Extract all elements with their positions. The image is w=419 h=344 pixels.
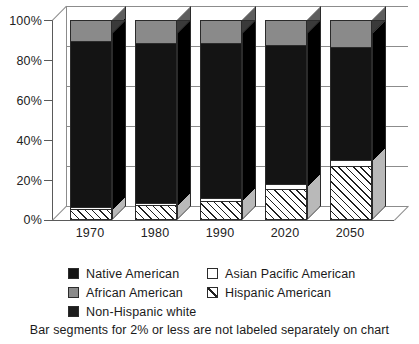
stacked-bar-chart: 100% 80% 60% 40% 20% 0%: [0, 0, 419, 344]
legend-item-native-american: Native American: [68, 266, 179, 281]
bar-2020-seg-non-hispanic-white: [265, 45, 307, 185]
bar-2050-seg-non-hispanic-white: [330, 47, 372, 161]
legend-label-african-american: African American: [86, 286, 183, 300]
bar-1990-seg-hispanic-american: [200, 201, 242, 220]
bar-2050-seg-african-american: [330, 20, 372, 48]
xtick-label-1980: 1980: [123, 226, 187, 240]
bar-1980-side: [177, 6, 191, 220]
bar-1970-seg-non-hispanic-white: [70, 41, 112, 208]
chart-legend: Native American African American Non-His…: [0, 264, 419, 344]
y-axis-line: [52, 20, 53, 220]
x-axis-line: [52, 220, 394, 221]
bar-2050: [330, 6, 372, 220]
bar-2020-seg-hispanic-american: [265, 189, 307, 220]
xtick-label-2050: 2050: [318, 226, 382, 240]
bar-1980-seg-hispanic-american: [135, 205, 177, 220]
legend-item-african-american: African American: [68, 285, 183, 300]
hatched-swatch-icon: [207, 287, 218, 298]
black-swatch-icon: [68, 268, 79, 279]
legend-item-hispanic-american: Hispanic American: [207, 285, 331, 300]
white-swatch-icon: [207, 268, 218, 279]
bar-1990-side: [242, 6, 256, 220]
bar-1970: [70, 6, 112, 220]
bar-1970-seg-hispanic-american: [70, 209, 112, 220]
legend-item-non-hispanic-white: Non-Hispanic white: [68, 304, 196, 319]
plot-area: 100% 80% 60% 40% 20% 0%: [0, 0, 419, 262]
bar-1990-seg-african-american: [200, 20, 242, 44]
legend-label-hispanic-american: Hispanic American: [225, 286, 331, 300]
ytick-label-0: 0%: [2, 213, 42, 227]
axis-depth-edge-bottom: [52, 206, 67, 221]
floor-right-depth-edge: [394, 206, 409, 221]
bar-1970-seg-african-american: [70, 20, 112, 42]
xtick-label-1990: 1990: [188, 226, 252, 240]
bar-1980: [135, 6, 177, 220]
ytick-label-60: 60%: [2, 94, 42, 108]
axis-depth-edge-top: [52, 6, 67, 21]
legend-item-asian-pacific-american: Asian Pacific American: [207, 266, 355, 281]
gray-swatch-icon: [68, 287, 79, 298]
bar-1980-seg-african-american: [135, 20, 177, 44]
ytick-label-100: 100%: [2, 14, 42, 28]
bar-1970-side: [112, 6, 126, 220]
legend-label-non-hispanic-white: Non-Hispanic white: [86, 305, 196, 319]
ytick-label-80: 80%: [2, 54, 42, 68]
ytick-label-40: 40%: [2, 134, 42, 148]
bar-2020-seg-african-american: [265, 20, 307, 46]
legend-label-native-american: Native American: [86, 267, 179, 281]
bar-1990: [200, 6, 242, 220]
bar-2020-side: [307, 6, 321, 220]
xtick-label-2020: 2020: [253, 226, 317, 240]
xtick-label-1970: 1970: [58, 226, 122, 240]
bar-2050-side: [372, 6, 386, 220]
chart-footnote: Bar segments for 2% or less are not labe…: [0, 323, 419, 337]
legend-label-asian-pacific-american: Asian Pacific American: [225, 267, 355, 281]
dark-swatch-icon: [68, 306, 79, 317]
bar-1990-seg-non-hispanic-white: [200, 43, 242, 199]
ytick-label-20: 20%: [2, 174, 42, 188]
bar-1980-seg-non-hispanic-white: [135, 43, 177, 204]
bar-2050-seg-hispanic-american: [330, 166, 372, 220]
y-axis-back-line: [66, 6, 67, 206]
bar-2020: [265, 6, 307, 220]
